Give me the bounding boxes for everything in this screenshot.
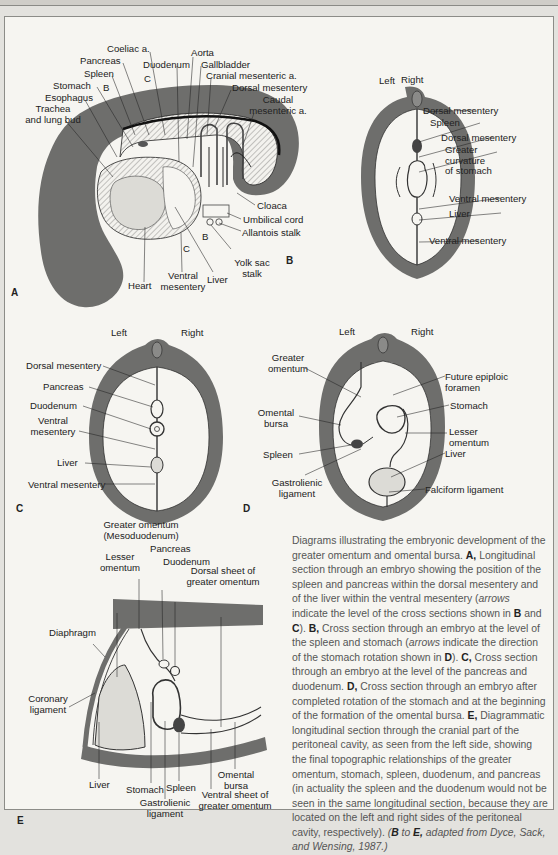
label-greater-line2: (Mesoduodenum) bbox=[103, 530, 178, 541]
label-dorsal-mesentery: Dorsal mesentery bbox=[26, 360, 101, 371]
label-ventral-mesentery-2: Ventral mesentery bbox=[429, 235, 506, 246]
label-heart: Heart bbox=[128, 280, 151, 291]
label-ventral-mesentery: Ventral mesentery bbox=[28, 415, 78, 437]
label-stomach: Stomach bbox=[53, 80, 91, 91]
label-ventral-line2: mesentery bbox=[31, 426, 76, 437]
panel-c-cross-section bbox=[89, 339, 223, 525]
label-yolk-line1: Yolk sac bbox=[234, 257, 269, 268]
label-trachea-lung-bud: Trachea and lung bud bbox=[23, 103, 83, 125]
label-spleen: Spleen bbox=[430, 117, 460, 128]
label-diaphragm: Diaphragm bbox=[49, 627, 96, 638]
label-omental-bursa: Omental bursa bbox=[213, 769, 259, 791]
caption-text-a2: indicate the level of the cross sections… bbox=[292, 608, 511, 619]
caption-and: and bbox=[524, 608, 541, 619]
caption-source-b: B bbox=[391, 827, 399, 838]
label-lesser-line2: omentum bbox=[100, 562, 140, 573]
caption-letter-d: D, bbox=[347, 681, 357, 692]
label-spleen: Spleen bbox=[166, 782, 196, 793]
label-greater-omentum-mesoduodenum: Greater omentum (Mesoduodenum) bbox=[101, 519, 181, 541]
label-liver: Liver bbox=[89, 779, 110, 790]
label-future-epiploic-foramen: Future epiploic foramen bbox=[445, 371, 508, 393]
label-caudal-line2: mesenteric a. bbox=[249, 105, 307, 116]
label-future-line2: foramen bbox=[445, 382, 480, 393]
label-ventral-line1: Ventral bbox=[168, 270, 198, 281]
label-pancreas: Pancreas bbox=[150, 543, 191, 554]
caption-source-e: E, bbox=[413, 827, 423, 838]
label-dorsal-sheet-greater-omentum: Dorsal sheet of greater omentum bbox=[183, 565, 263, 587]
label-lesser-line1: Lesser bbox=[449, 426, 478, 437]
label-liver: Liver bbox=[449, 208, 470, 219]
label-greater-line2: curvature bbox=[445, 155, 485, 166]
panel-letter-a: A bbox=[11, 287, 18, 298]
caption-text-e: Diagrammatic longitudinal section throug… bbox=[292, 710, 548, 838]
label-umbilical-cord: Umbilical cord bbox=[243, 214, 303, 225]
label-lesser-line1: Lesser bbox=[106, 551, 135, 562]
label-right: Right bbox=[181, 327, 203, 338]
label-left: Left bbox=[339, 326, 355, 337]
caption-source-to: to bbox=[402, 827, 411, 838]
label-arrow-b-ventral: B bbox=[202, 231, 208, 242]
page-top-strip bbox=[0, 0, 558, 6]
label-duodenum: Duodenum bbox=[30, 400, 77, 411]
label-gastro-line2: ligament bbox=[147, 808, 183, 819]
label-omental-bursa: Omental bursa bbox=[251, 407, 301, 429]
label-trachea-line1: Trachea bbox=[36, 103, 71, 114]
label-right: Right bbox=[411, 326, 433, 337]
label-greater-line3: of stomach bbox=[445, 165, 492, 176]
label-right: Right bbox=[401, 74, 423, 85]
caption-close-b: ). bbox=[452, 652, 458, 663]
caption-ref-d: D bbox=[444, 652, 452, 663]
caption-ref-c: C bbox=[292, 623, 300, 634]
label-spleen: Spleen bbox=[263, 449, 293, 460]
label-liver: Liver bbox=[445, 448, 466, 459]
label-yolk-line2: stalk bbox=[242, 268, 262, 279]
label-greater-omentum: Greater omentum bbox=[263, 352, 313, 374]
panel-letter-d: D bbox=[243, 503, 250, 514]
label-coronary-ligament: Coronary ligament bbox=[25, 693, 71, 715]
label-caudal-mesenteric-artery: Caudal mesenteric a. bbox=[243, 94, 313, 116]
label-left: Left bbox=[379, 75, 395, 86]
label-ventral-mesentery: Ventral mesentery bbox=[155, 270, 211, 292]
label-cloaca: Cloaca bbox=[257, 200, 287, 211]
label-ventral-line2: mesentery bbox=[161, 281, 206, 292]
label-left: Left bbox=[111, 327, 127, 338]
label-arrow-c: C bbox=[144, 73, 151, 84]
label-dorsal-mesentery: Dorsal mesentery bbox=[423, 105, 498, 116]
label-falciform-ligament: Falciform ligament bbox=[425, 484, 503, 495]
label-stomach: Stomach bbox=[450, 400, 488, 411]
label-esophagus: Esophagus bbox=[45, 92, 93, 103]
panel-e-longitudinal-section bbox=[81, 599, 267, 768]
label-gastro-line1: Gastrolienic bbox=[140, 797, 191, 808]
label-dorsal-line1: Dorsal sheet of bbox=[191, 565, 256, 576]
label-dorsal-line2: greater omentum bbox=[186, 576, 259, 587]
label-pancreas: Pancreas bbox=[80, 55, 121, 66]
caption-close-a: ). bbox=[300, 623, 306, 634]
label-greater-curvature: Greater curvature of stomach bbox=[445, 145, 492, 177]
label-coeliac-artery: Coeliac a. bbox=[107, 43, 150, 54]
label-allantois-stalk: Allantois stalk bbox=[242, 227, 301, 238]
caption-letter-c: C, bbox=[461, 652, 471, 663]
panel-letter-e: E bbox=[17, 815, 24, 826]
label-ventral-mesentery: Ventral mesentery bbox=[449, 193, 526, 204]
label-liver: Liver bbox=[57, 457, 78, 468]
label-gastrolienic-ligament: Gastrolienic ligament bbox=[137, 797, 193, 819]
label-omental-line2: bursa bbox=[264, 418, 288, 429]
caption-letter-e: E, bbox=[468, 710, 478, 721]
label-omental-line1: Omental bbox=[258, 407, 294, 418]
label-greater-line1: Greater omentum bbox=[103, 519, 178, 530]
label-gastro-line1: Gastrolienic bbox=[272, 477, 323, 488]
label-caudal-line1: Caudal bbox=[263, 94, 293, 105]
label-aorta: Aorta bbox=[191, 47, 214, 58]
caption-letter-b: B, bbox=[309, 623, 319, 634]
label-ventral-sheet-greater-omentum: Ventral sheet of greater omentum bbox=[198, 789, 272, 811]
caption-letter-a: A, bbox=[466, 550, 476, 561]
label-greater-line1: Greater bbox=[445, 144, 478, 155]
label-greater-line1: Greater bbox=[272, 352, 305, 363]
label-future-line1: Future epiploic bbox=[445, 371, 508, 382]
label-omental-line1: Omental bbox=[218, 769, 254, 780]
figure-caption: Diagrams illustrating the embryonic deve… bbox=[292, 534, 548, 855]
label-ventral-line2: greater omentum bbox=[198, 800, 271, 811]
label-gastro-line2: ligament bbox=[279, 488, 315, 499]
label-ventral-line1: Ventral sheet of bbox=[202, 789, 269, 800]
caption-ref-b: B bbox=[514, 608, 522, 619]
